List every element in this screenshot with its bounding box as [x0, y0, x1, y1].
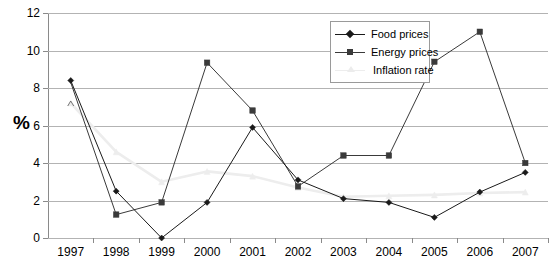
data-point: [522, 169, 528, 175]
series-line-diamond: [71, 81, 526, 239]
data-point: [68, 78, 74, 84]
series-food-prices: [68, 78, 529, 242]
data-point: [431, 214, 437, 220]
legend-item-food-prices[interactable]: Food prices: [331, 26, 429, 44]
data-point: [295, 184, 301, 190]
data-point: [341, 153, 347, 159]
legend-marker-triangle-icon: [335, 68, 365, 74]
legend-item-inflation-rate[interactable]: Inflation rate: [331, 62, 429, 80]
data-point: [204, 60, 210, 66]
data-point: [113, 212, 119, 218]
series-line-energy-lead: [71, 82, 117, 214]
legend-item-energy-prices[interactable]: Energy prices: [331, 44, 429, 62]
data-point: [159, 200, 165, 206]
legend-label-inflation-rate: Inflation rate: [373, 63, 434, 77]
series-line-square: [116, 32, 525, 215]
series-energy-prices: [71, 29, 528, 217]
chart-legend: Food prices Energy prices Inflation rate: [330, 21, 430, 83]
data-point: [477, 29, 483, 35]
legend-marker-square-icon: [335, 50, 365, 56]
line-chart: % 024681012 1997199819992000200120022003…: [0, 0, 555, 271]
data-point: [386, 153, 392, 159]
data-point: [523, 160, 529, 166]
legend-marker-diamond-icon: [335, 32, 365, 38]
legend-label-food-prices: Food prices: [371, 27, 428, 41]
data-point: [386, 199, 392, 205]
legend-label-energy-prices: Energy prices: [371, 45, 438, 59]
series-plot: [0, 0, 555, 271]
data-point: [250, 108, 256, 114]
